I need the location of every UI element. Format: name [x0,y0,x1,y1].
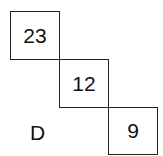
box-value: 23 [23,24,46,48]
number-box-3: 9 [108,107,158,155]
box-value: 12 [72,72,95,96]
number-box-1: 23 [10,11,60,60]
number-box-2: 12 [59,59,109,108]
label-d: D [30,121,45,145]
box-value: 9 [127,119,139,143]
